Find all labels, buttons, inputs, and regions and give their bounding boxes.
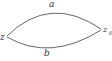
end-point-label: z xyxy=(102,25,108,34)
path-a-label: a xyxy=(49,0,54,9)
diagram-canvas: a b z z 0 xyxy=(0,0,112,61)
path-b xyxy=(7,30,101,48)
end-point-subscript: 0 xyxy=(109,30,112,36)
path-b-label: b xyxy=(44,48,50,58)
start-point-label: z xyxy=(0,32,5,42)
path-a xyxy=(7,13,101,36)
